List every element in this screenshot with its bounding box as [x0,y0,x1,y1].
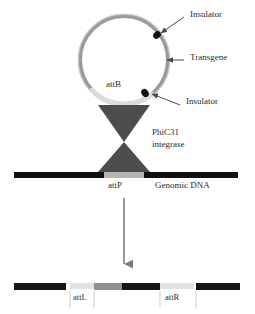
product-genomic-right-arm [196,283,240,290]
label-insulator-top: Insulator [190,10,222,19]
integrase-upper-triangle [98,105,150,142]
label-integrase-line1: PhiC31 [152,128,179,137]
product-attL-element [70,283,94,289]
label-attL: attL [73,293,87,302]
leader-insulator-bottom [152,94,180,105]
attP-site-segment [104,172,144,178]
integrase-lower-triangle [98,142,150,172]
genomic-dna-left-arm [14,172,104,178]
label-genomic-dna: Genomic DNA [155,181,210,190]
leader-insulator-top [161,17,184,33]
label-transgene: Transgene [190,53,227,62]
product-transgene-body [122,283,160,290]
label-insulator-bottom: Insulator [186,97,218,106]
label-attP: attP [108,181,122,190]
diagram-canvas [0,0,255,314]
product-attR-element [160,283,194,289]
label-attB: attB [106,80,121,89]
label-integrase-line2: integrase [152,140,184,149]
phic31-integrase-diagram: Insulator Transgene Insulator attB PhiC3… [0,0,255,314]
genomic-dna-right-arm [144,172,238,178]
product-insulator-left [94,283,122,290]
label-attR: attR [165,293,179,302]
product-genomic-left-arm [14,283,66,290]
